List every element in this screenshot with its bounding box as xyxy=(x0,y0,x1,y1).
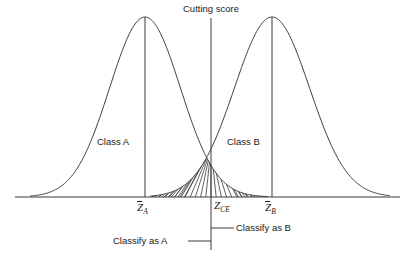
symbol: Z xyxy=(214,199,220,211)
overbar xyxy=(137,201,142,202)
subscript: B xyxy=(271,207,276,216)
subscript: CE xyxy=(220,205,230,214)
symbol: Z xyxy=(265,201,271,213)
classify-as-b-label: Classify as B xyxy=(236,223,291,233)
distribution-cutting-score-figure: Cutting score Class A Class B Classify a… xyxy=(0,0,413,260)
class-a-curve xyxy=(30,17,268,197)
overbar xyxy=(265,201,270,202)
cutting-score-label: Cutting score xyxy=(183,4,239,14)
cutting-score-axis-label: ZCE xyxy=(214,200,230,213)
class-b-mean-axis-label: ZB xyxy=(265,202,276,215)
figure-canvas xyxy=(0,0,413,260)
class-b-label: Class B xyxy=(227,137,260,147)
subscript: A xyxy=(143,207,148,216)
class-a-mean-axis-label: ZA xyxy=(137,202,148,215)
class-a-label: Class A xyxy=(97,137,129,147)
symbol: Z xyxy=(137,201,143,213)
classify-as-a-label: Classify as A xyxy=(113,236,167,246)
